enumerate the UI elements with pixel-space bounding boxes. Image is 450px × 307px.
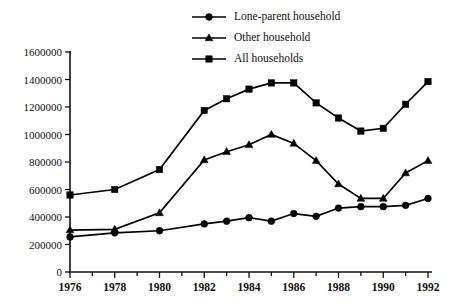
data-point-circle bbox=[246, 214, 253, 221]
y-axis-tick-label: 400000 bbox=[29, 211, 63, 223]
legend-label: Lone-parent household bbox=[234, 10, 341, 23]
x-axis-tick-label: 1992 bbox=[417, 281, 440, 293]
data-point-circle bbox=[425, 195, 432, 202]
y-axis-tick-label: 200000 bbox=[29, 239, 63, 251]
x-axis-tick-label: 1982 bbox=[193, 281, 216, 293]
x-axis-tick-label: 1988 bbox=[327, 281, 350, 293]
data-point-square bbox=[380, 125, 386, 131]
data-point-square bbox=[291, 80, 297, 86]
y-axis-tick-label: 600000 bbox=[29, 184, 63, 196]
data-point-square bbox=[425, 78, 431, 84]
legend-label: Other household bbox=[234, 31, 311, 43]
data-point-circle bbox=[335, 205, 342, 212]
legend-item-circle bbox=[192, 14, 226, 21]
y-axis-tick-label: 1600000 bbox=[24, 46, 63, 58]
series-line bbox=[70, 82, 428, 195]
data-point-circle bbox=[156, 227, 163, 234]
y-axis: 0200000400000600000800000100000012000001… bbox=[24, 46, 71, 278]
data-point-square bbox=[358, 128, 364, 134]
legend-item-square bbox=[192, 56, 226, 62]
data-point-circle bbox=[223, 218, 230, 225]
x-axis-tick-label: 1984 bbox=[238, 281, 261, 293]
legend-label: All households bbox=[234, 52, 304, 64]
data-point-square bbox=[201, 107, 207, 113]
x-axis-tick-label: 1990 bbox=[372, 281, 395, 293]
data-point-circle bbox=[268, 218, 275, 225]
data-point-triangle bbox=[424, 157, 432, 164]
x-axis-tick-label: 1986 bbox=[282, 281, 305, 293]
data-point-square bbox=[156, 166, 162, 172]
data-point-square bbox=[335, 115, 341, 121]
y-axis-tick-label: 1400000 bbox=[24, 74, 63, 86]
y-axis-tick-label: 0 bbox=[57, 266, 63, 278]
data-point-square bbox=[223, 96, 229, 102]
data-point-circle bbox=[201, 220, 208, 227]
data-point-square bbox=[246, 86, 252, 92]
x-axis-tick-label: 1978 bbox=[103, 281, 126, 293]
legend-marker-circle bbox=[206, 14, 213, 21]
chart-legend: Lone-parent householdOther householdAll … bbox=[192, 10, 341, 64]
series-layer bbox=[66, 78, 432, 240]
data-point-circle bbox=[380, 203, 387, 210]
data-point-square bbox=[402, 101, 408, 107]
line-chart: 0200000400000600000800000100000012000001… bbox=[0, 0, 450, 307]
chart-canvas: 0200000400000600000800000100000012000001… bbox=[0, 0, 450, 307]
data-point-circle bbox=[402, 202, 409, 209]
x-axis-tick-label: 1976 bbox=[59, 281, 82, 293]
y-axis-tick-label: 800000 bbox=[29, 156, 63, 168]
y-axis-tick-label: 1000000 bbox=[24, 129, 63, 141]
data-point-circle bbox=[357, 203, 364, 210]
legend-marker-square bbox=[206, 56, 212, 62]
data-point-triangle bbox=[267, 130, 275, 137]
data-point-square bbox=[268, 80, 274, 86]
data-point-circle bbox=[67, 234, 74, 241]
data-point-square bbox=[112, 186, 118, 192]
data-point-square bbox=[313, 100, 319, 106]
series-all-households bbox=[67, 78, 431, 198]
x-axis: 197619781980198219841986198819901992 bbox=[59, 272, 440, 293]
series-lone-parent-household bbox=[67, 195, 432, 240]
data-point-square bbox=[67, 192, 73, 198]
data-point-circle bbox=[313, 213, 320, 220]
data-point-circle bbox=[290, 210, 297, 217]
legend-item-triangle bbox=[192, 34, 226, 41]
y-axis-tick-label: 1200000 bbox=[24, 101, 63, 113]
x-axis-tick-label: 1980 bbox=[148, 281, 171, 293]
